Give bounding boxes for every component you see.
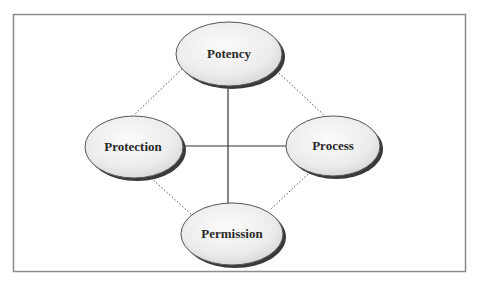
node-permission-label: Permission — [201, 226, 263, 241]
node-protection-label: Protection — [104, 139, 162, 154]
diagram-canvas: Potency Protection Process Permission — [0, 0, 477, 284]
node-potency-label: Potency — [207, 46, 252, 61]
node-process-label: Process — [312, 138, 354, 153]
diagram: Potency Protection Process Permission — [0, 0, 477, 284]
